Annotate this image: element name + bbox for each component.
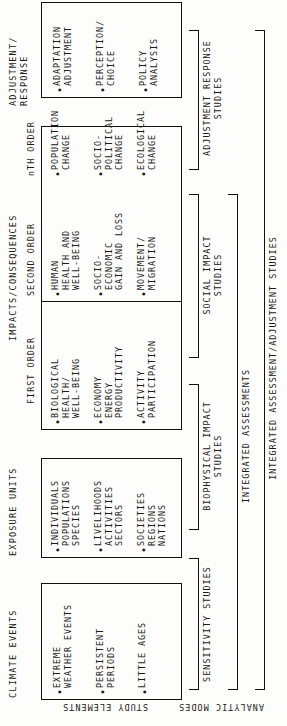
climate-events-item-3: LITTLE AGES [137, 622, 148, 688]
adjustment-response-item-1: ADAPTATION ADJUSTMENT [52, 26, 73, 86]
adjustment-response-item-3: POLICY ANALYSIS [138, 38, 159, 86]
edge-label-study-elements: STUDY ELEMENTS [62, 702, 148, 712]
subheader-first-order: FIRST ORDER [26, 337, 36, 404]
label-adjustment-response-studies: ADJUSTMENT RESPONSE STUDIES [202, 10, 224, 186]
bracket-adjustment-response-studies [189, 30, 199, 170]
bracket-sensitivity-studies [189, 558, 199, 690]
label-integrated-assessment-adjustment-studies: INTEGRATED ASSESSMENT/ADJUSTMENT STUDIES [268, 208, 279, 508]
second-order-item-1: HUMAN HEALTH AND WELL-BEING [50, 230, 82, 290]
column-header-impacts-consequences: IMPACTS/CONSEQUENCES [8, 215, 18, 341]
label-social-impact-studies: SOCIAL IMPACT STUDIES [202, 196, 224, 354]
first-order-item-3: ACTIVITY PARTICIPATION [136, 340, 157, 418]
subheader-second-order: SECOND ORDER [26, 223, 36, 296]
column-header-climate-events: CLIMATE EVENTS [8, 609, 18, 698]
diagram-canvas: CLIMATE EVENTS EXPOSURE UNITS IMPACTS/CO… [0, 0, 287, 726]
nth-order-item-1: POPULATION CHANGE [50, 110, 71, 170]
bracket-integrated-assessment-adjustment-studies [255, 30, 265, 690]
nth-order-item-2: SOCIO- POLITICAL CHANGE [93, 116, 125, 170]
exposure-units-item-2: LIVELIHOODS ACTIVITIES SECTORS [93, 480, 125, 546]
label-integrated-assessments: INTEGRATED ASSESSMENTS [241, 336, 252, 536]
label-sensitivity-studies: SENSITIVITY STUDIES [202, 544, 213, 704]
first-order-item-2: ECONOMY ENERGY PRODUCTIVITY [93, 346, 125, 418]
bracket-social-impact-studies [189, 194, 199, 358]
climate-events-item-1: EXTREME WEATHER EVENTS [52, 604, 73, 688]
first-order-item-1: BIOLOGICAL HEALTH/ WELL-BEING [50, 358, 82, 418]
exposure-units-item-1: INDIVIDUALS POPULATIONS SPECIES [50, 480, 82, 546]
climate-events-item-2: PERSISTENT PERIODS [95, 628, 116, 688]
column-header-exposure-units: EXPOSURE UNITS [8, 467, 18, 556]
exposure-units-item-3: SOCIETIES REGIONS NATIONS [136, 492, 168, 546]
subheader-nth-order: nTH ORDER [26, 121, 36, 176]
bracket-biophysical-impact-studies [189, 384, 199, 530]
second-order-item-2: SOCIO- ECONOMIC GAIN AND LOSS [93, 212, 125, 290]
label-biophysical-impact-studies: BIOPHYSICAL IMPACT STUDIES [202, 378, 224, 534]
second-order-item-3: MOVEMENT/ MIGRATION [136, 236, 157, 290]
column-header-adjustment-response: ADJUSTMENT/ RESPONSE [8, 36, 30, 106]
bracket-integrated-assessments [228, 194, 238, 690]
impacts-divider-first-second [41, 301, 182, 302]
nth-order-item-3: ECOLOGICAL CHANGE [136, 110, 157, 170]
adjustment-response-item-2: PERCEPTION/ CHOICE [95, 20, 116, 86]
edge-label-analytic-modes: ANALYTIC MODES [178, 702, 264, 712]
